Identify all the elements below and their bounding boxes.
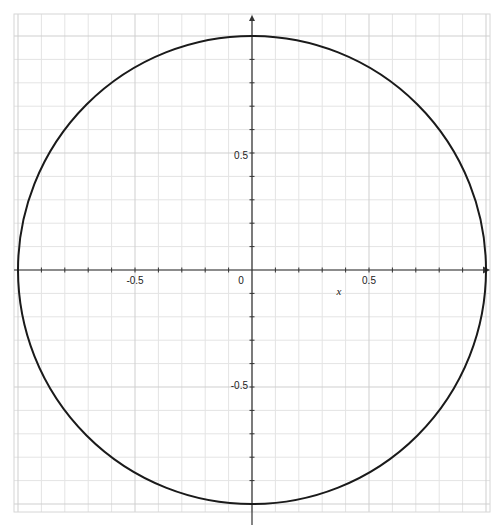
y-axis-arrow-icon [249,15,255,21]
y-tick-label-neg-half: -0.5 [231,380,249,391]
chart-canvas: -0.5 0 0.5 x 0.5 -0.5 [0,0,502,525]
y-tick-label-pos-half: 0.5 [234,150,248,161]
x-tick-label-pos-half: 0.5 [362,275,376,286]
x-tick-label-zero: 0 [238,275,244,286]
x-tick-label-neg-half: -0.5 [126,275,144,286]
x-axis-title: x [336,285,342,297]
